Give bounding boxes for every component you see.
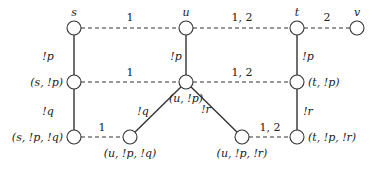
edge-label: !r — [303, 105, 313, 118]
node-label: t — [295, 6, 300, 19]
edge-u_p-u_p_r — [186, 82, 242, 137]
node-label: u — [182, 6, 189, 19]
node-label: (u, !p) — [169, 92, 203, 105]
edge-label: !q — [137, 105, 148, 118]
node-label: (s, !p, !q) — [12, 131, 63, 144]
edge-label: 1, 2 — [232, 66, 253, 79]
node-s — [67, 21, 81, 35]
node-label: s — [71, 6, 77, 19]
node-u_p_r — [235, 130, 249, 144]
node-u_p_q — [123, 130, 137, 144]
node-label: v — [354, 6, 361, 19]
node-s_p — [67, 75, 81, 89]
edge-label: 1, 2 — [232, 11, 253, 24]
edge-label: 1 — [127, 11, 134, 24]
node-u_p — [179, 75, 193, 89]
edge-label: !p — [42, 50, 53, 63]
edge-label: 1, 2 — [260, 121, 281, 134]
node-t_p — [290, 75, 304, 89]
node-v — [350, 21, 364, 35]
edge-label: 1 — [99, 121, 106, 134]
edge-label: !p — [302, 50, 313, 63]
edge-label: 1 — [127, 66, 134, 79]
node-label: (u, !p, !r) — [217, 147, 268, 160]
edge-label: !q — [42, 105, 53, 118]
node-u — [179, 21, 193, 35]
edge-label: 2 — [324, 11, 331, 24]
node-t_p_r — [290, 130, 304, 144]
node-label: (t, !p, !r) — [308, 131, 356, 144]
node-label: (t, !p) — [308, 76, 339, 89]
graph-svg: 11, 22!p!p!p11, 2!q!q!r!r11, 2 sutv(s, !… — [0, 0, 379, 171]
node-label: (u, !p, !q) — [104, 147, 157, 160]
edge-label: !p — [170, 50, 181, 63]
node-label: (s, !p) — [30, 76, 63, 89]
graph-diagram: 11, 22!p!p!p11, 2!q!q!r!r11, 2 sutv(s, !… — [0, 0, 379, 171]
node-s_p_q — [67, 130, 81, 144]
node-t — [290, 21, 304, 35]
